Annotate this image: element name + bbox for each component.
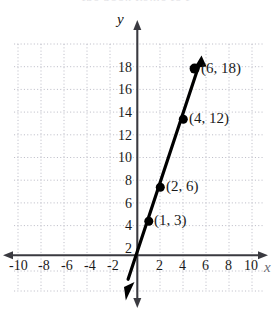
- x-tick-label: 4: [179, 258, 186, 274]
- point-label-2-6: (2, 6): [166, 178, 199, 195]
- x-tick-label: 8: [225, 258, 232, 274]
- y-tick-label: 14: [110, 105, 132, 121]
- x-axis-label: x: [264, 259, 271, 276]
- x-tick-label: -10: [9, 258, 28, 274]
- y-tick-label: 18: [110, 60, 132, 76]
- x-tick-label: -2: [107, 258, 119, 274]
- y-tick-label: 6: [110, 196, 132, 212]
- point-label-4-12: (4, 12): [189, 110, 229, 127]
- point-label-6-18: (6, 18): [201, 60, 241, 77]
- y-axis-label: y: [117, 11, 124, 28]
- point-6-18: [190, 64, 200, 74]
- point-4-12: [179, 115, 188, 124]
- y-tick-label: 8: [110, 173, 132, 189]
- point-1-3: [144, 217, 153, 226]
- y-tick-label: 4: [110, 218, 132, 234]
- x-tick-label: 2: [156, 258, 163, 274]
- y-tick-label: 2: [110, 241, 132, 257]
- x-tick-label: -6: [61, 258, 73, 274]
- grid-horizontal-lines: [14, 44, 264, 291]
- y-tick-label: 16: [110, 82, 132, 98]
- y-tick-label: 12: [110, 128, 132, 144]
- x-tick-label: -8: [38, 258, 50, 274]
- x-tick-label: 10: [244, 258, 258, 274]
- point-label-1-3: (1, 3): [154, 212, 187, 229]
- x-tick-label: -4: [84, 258, 96, 274]
- point-2-6: [156, 183, 165, 192]
- x-tick-label: 6: [202, 258, 209, 274]
- y-tick-label: 10: [110, 150, 132, 166]
